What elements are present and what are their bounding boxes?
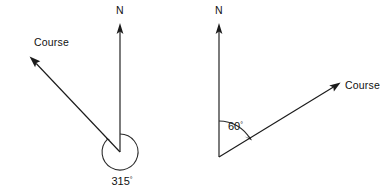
north-label-left: N <box>116 4 124 16</box>
degree-symbol-left: ° <box>130 176 133 183</box>
angle-label-left: 315° <box>111 175 132 187</box>
angle-value-right: 60 <box>228 120 240 132</box>
course-arrowhead-right <box>329 83 340 92</box>
diagram-canvas: N Course 315° N Course 60° <box>0 0 380 190</box>
degree-symbol-right: ° <box>240 121 243 128</box>
angle-value-left: 315 <box>111 175 129 187</box>
course-label-right: Course <box>345 79 380 91</box>
bearing-figure: N Course 315° N Course 60° <box>0 0 380 190</box>
diagram-bearing-60: N Course 60° <box>215 4 380 157</box>
north-label-right: N <box>215 4 223 16</box>
diagram-bearing-315: N Course 315° <box>30 4 138 187</box>
course-label-left: Course <box>34 36 69 48</box>
angle-label-right: 60° <box>228 120 243 132</box>
